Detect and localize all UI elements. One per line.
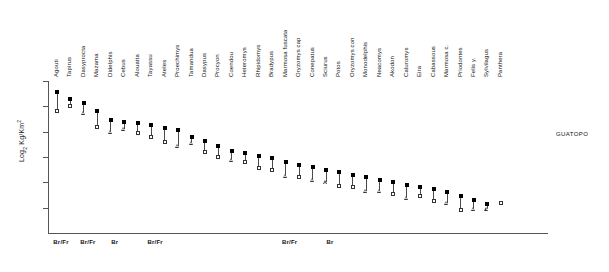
y-axis-title-mid: Kg/Km — [18, 123, 25, 147]
species-label-dasyprocta: Dasyprocta — [80, 46, 86, 77]
species-label-potos: Potos — [335, 61, 341, 77]
upper-marker-procyon — [216, 144, 220, 148]
lower-marker-mazama — [95, 125, 99, 129]
upper-marker-tapirus — [68, 97, 72, 101]
species-label-anchor: Proechimys — [180, 76, 181, 77]
species-label-anchor: Dasypus — [207, 76, 208, 77]
species-label-anchor: Caluromys — [409, 76, 410, 77]
lower-marker-tayassu — [149, 135, 153, 139]
species-label-sylvilagus: Sylvilagus — [483, 49, 489, 77]
species-label-anchor: Tapirus — [72, 76, 73, 77]
species-label-anchor: Tayassu — [153, 76, 154, 77]
upper-marker-rhipidomys — [257, 154, 261, 158]
species-label-marmosa-fuscata: Marmosa fuscata — [282, 29, 288, 77]
lower-marker-heteromys — [243, 160, 247, 164]
lower-marker-proechimys — [176, 144, 180, 148]
lower-marker-procyon — [216, 155, 220, 159]
species-label-anchor: Oryzomys con — [355, 76, 356, 77]
upper-marker-cabassous — [432, 187, 436, 191]
lower-marker-marmosa-fuscata — [283, 174, 287, 178]
y-axis-title-prefix: Log — [18, 150, 25, 162]
lower-marker-potos — [337, 184, 341, 188]
y-axis-title-sup: 2 — [16, 120, 22, 123]
upper-marker-cebus — [122, 120, 126, 124]
upper-marker-didelphis — [109, 118, 113, 122]
upper-marker-alouatta — [136, 121, 140, 125]
species-label-oryzomys-con: Oryzomys con — [349, 37, 355, 77]
lower-marker-ateles — [163, 140, 167, 144]
species-label-cebus: Cebus — [120, 59, 126, 77]
species-label-anchor: Marmosa fuscata — [288, 76, 289, 77]
species-label-conepatus: Conepatus — [309, 47, 315, 77]
y-axis-tick-1 — [43, 106, 49, 107]
upper-marker-proechimys — [176, 128, 180, 132]
species-label-anchor: Marmosa c. — [449, 76, 450, 77]
lower-marker-caluromys — [404, 196, 408, 200]
species-label-alouatta: Alouatta — [134, 54, 140, 77]
species-label-marmosa-c: Marmosa c. — [443, 45, 449, 77]
lower-marker-cebus — [122, 127, 126, 131]
species-label-anchor: Agouti — [59, 76, 60, 77]
lower-marker-agouti — [55, 109, 59, 113]
species-label-anchor: Panthera — [503, 76, 504, 77]
upper-marker-conepatus — [311, 165, 315, 169]
species-label-rhipidomys: Rhipidomys — [255, 45, 261, 77]
species-label-anchor: Dasyprocta — [86, 76, 87, 77]
species-label-tamandua: Tamandua — [188, 48, 194, 77]
species-label-anchor: Ateles — [167, 76, 168, 77]
species-label-anchor: Heteromys — [247, 76, 248, 77]
lower-marker-marmosa-c — [445, 201, 449, 205]
lower-marker-rhipidomys — [257, 166, 261, 170]
lower-marker-alouatta — [136, 131, 140, 135]
upper-marker-caluromys — [405, 183, 409, 187]
species-label-procyon: Procyon — [214, 54, 220, 77]
x-axis-line — [48, 233, 548, 234]
species-label-anchor: Mazama — [99, 76, 100, 77]
upper-marker-marmosa-fuscata — [284, 160, 288, 164]
species-label-akodon: Akodon — [389, 56, 395, 77]
habitat-label-1: Br/Fr — [80, 239, 95, 245]
species-label-anchor: Alouatta — [140, 76, 141, 77]
upper-marker-oryzomys-cap — [297, 163, 301, 167]
lower-marker-didelphis — [108, 130, 112, 134]
species-label-tapirus: Tapirus — [66, 57, 72, 77]
upper-marker-sylvilagus — [485, 202, 489, 206]
lower-marker-bradypus — [270, 168, 274, 172]
species-label-dasypus: Dasypus — [201, 53, 207, 77]
lower-marker-dasypus — [203, 150, 207, 154]
y-axis-title: Log2 Kg/Km2 — [16, 106, 28, 176]
habitat-label-0: Br/Fr — [53, 239, 68, 245]
species-label-anchor: Rhipidomys — [261, 76, 262, 77]
habitat-label-5: Br — [326, 239, 333, 245]
lower-marker-panthera — [499, 201, 503, 205]
upper-marker-tamandua — [190, 135, 194, 139]
upper-marker-heteromys — [243, 151, 247, 155]
species-label-heteromys: Heteromys — [241, 47, 247, 77]
lower-marker-oryzomys-con — [351, 185, 355, 189]
species-label-coendou: Coendou — [228, 52, 234, 77]
species-label-priodontes: Priodontes — [457, 47, 463, 77]
lower-marker-sciurus — [324, 180, 328, 184]
species-label-oryzomys-cap: Oryzomys cap — [295, 37, 301, 77]
lower-marker-sylvilagus — [485, 207, 489, 211]
habitat-label-2: Br — [111, 239, 118, 245]
y-axis-tick-2 — [43, 132, 49, 133]
upper-marker-dasypus — [203, 139, 207, 143]
species-label-mazama: Mazama — [93, 53, 99, 77]
upper-marker-ateles — [163, 126, 167, 130]
y-axis-title-sub: 2 — [22, 147, 28, 150]
species-label-anchor: Akodon — [395, 76, 396, 77]
species-label-anchor: Cabassous — [436, 76, 437, 77]
upper-marker-akodon — [391, 180, 395, 184]
species-label-bradypus: Bradypus — [268, 51, 274, 77]
species-label-cabassous: Cabassous — [430, 46, 436, 77]
upper-marker-marmosa-c — [445, 190, 449, 194]
upper-marker-oryzomys-con — [351, 173, 355, 177]
lower-marker-cabassous — [432, 199, 436, 203]
species-label-didelphis: Didelphis — [107, 51, 113, 77]
species-label-agouti: Agouti — [53, 59, 59, 77]
species-label-anchor: Sylvilagus — [489, 76, 490, 77]
y-axis-tick-0 — [43, 81, 49, 82]
y-axis-tick-3 — [43, 157, 49, 158]
chart-figure: Log2 Kg/Km2 AgoutiTapirusDasyproctaMazam… — [0, 0, 609, 272]
